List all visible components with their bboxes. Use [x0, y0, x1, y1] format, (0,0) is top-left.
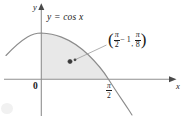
centroid-annotation-label: ( π 2 − 1 , π 8 ) — [108, 31, 146, 49]
x-tick-label-pi-over-2: π 2 — [106, 82, 112, 99]
y-axis-label: y — [33, 3, 37, 12]
fraction-denominator: 2 — [106, 91, 112, 99]
scan-artifact — [1, 103, 13, 114]
leader-line-endpoint — [74, 58, 77, 61]
math-figure: y = cos x 0 y x π 2 ( π 2 − 1 , π 8 ) — [0, 0, 192, 120]
centroid-point-marker — [68, 59, 72, 63]
origin-label: 0 — [33, 82, 38, 92]
y-axis-arrowhead — [38, 3, 44, 10]
fraction-pi-over-2: π 2 — [106, 82, 112, 99]
fraction-numerator: π — [106, 82, 112, 91]
shaded-area-under-curve — [41, 33, 108, 79]
x-axis-label: x — [176, 82, 180, 91]
x-coordinate-offset: − 1 — [120, 36, 132, 44]
graph-canvas — [0, 0, 192, 120]
curve-equation-label: y = cos x — [47, 13, 83, 23]
close-paren: ) — [141, 32, 147, 48]
